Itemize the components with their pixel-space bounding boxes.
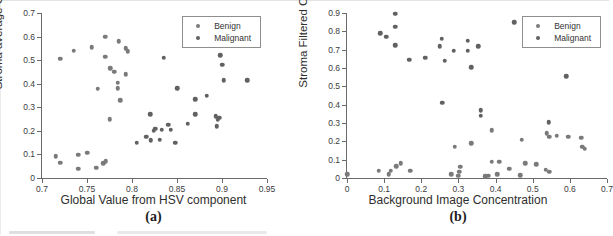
data-point-malignant [186,122,191,127]
y-tick-label: 0.8 [328,26,340,36]
y-tick [37,60,41,61]
x-tick [496,179,497,183]
scatter-panel-a: Stroma average Concentration Benign Mali… [1,1,306,236]
y-tick-label: 0.9 [328,8,340,18]
y-tick [342,13,346,14]
x-tick [533,179,534,183]
data-point-benign [103,34,108,39]
y-tick-label: 0.4 [328,100,340,110]
data-point-malignant [153,126,158,131]
data-point-benign [104,159,109,164]
x-tick [347,179,348,183]
data-point-malignant [546,120,551,125]
x-tick [132,179,133,183]
data-point-malignant [245,78,250,83]
data-point-malignant [215,118,220,123]
data-point-benign [408,168,413,173]
legend-label: Benign [214,21,240,31]
data-point-benign [534,162,539,167]
legend-entry-malignant: Malignant [530,32,591,44]
data-point-malignant [204,93,209,98]
y-tick [342,68,346,69]
y-tick [342,141,346,142]
data-point-malignant [465,48,470,53]
legend-label: Malignant [554,33,591,43]
x-tick [607,179,608,183]
x-tick [87,179,88,183]
data-point-benign [85,150,90,155]
data-point-benign [107,117,112,122]
y-tick [342,123,346,124]
data-point-benign [579,135,584,140]
x-tick [421,179,422,183]
data-point-malignant [378,31,383,36]
data-point-benign [94,166,99,171]
subfigure-caption-b: (b) [306,209,610,225]
x-axis-label-a: Global Value from HSV component [1,193,306,207]
data-point-benign [547,135,552,140]
plot-area-b: Benign Malignant 00.10.20.30.40.50.60.70… [346,13,607,179]
x-tick [267,179,268,183]
data-point-malignant [148,112,153,117]
data-point-benign [490,128,495,133]
data-point-benign [456,174,461,179]
data-point-malignant [476,44,481,49]
data-point-benign [125,49,130,54]
data-point-benign [519,137,524,142]
data-point-benign [58,160,63,165]
y-tick-label: 0.5 [23,55,35,65]
data-point-malignant [173,140,178,145]
data-point-benign [53,154,58,159]
data-point-benign [457,169,462,174]
data-point-benign [115,86,120,91]
data-point-benign [76,166,81,171]
data-point-benign [116,39,121,44]
data-point-benign [123,72,128,77]
subfigure-caption-a: (a) [1,209,306,225]
y-tick-label: 0 [335,173,340,183]
data-point-benign [497,159,502,164]
legend-a: Benign Malignant [182,16,261,48]
data-point-malignant [438,44,443,49]
data-point-benign [458,164,463,169]
y-tick-label: 0.7 [328,45,340,55]
y-tick-label: 0.6 [328,63,340,73]
data-point-benign [449,172,454,177]
data-point-benign [507,167,512,172]
x-tick [177,179,178,183]
data-point-benign [112,70,117,75]
data-point-malignant [193,97,198,102]
data-point-malignant [168,127,173,132]
data-point-benign [399,161,404,166]
data-point-malignant [222,78,227,83]
data-point-benign [518,173,523,178]
data-point-malignant [478,108,483,113]
y-tick [37,13,41,14]
data-point-malignant [440,101,445,106]
y-tick-label: 0.2 [23,126,35,136]
data-point-benign [582,146,587,151]
data-point-benign [547,169,552,174]
data-point-benign [495,172,500,177]
y-tick [37,131,41,132]
data-point-benign [71,48,76,53]
data-point-malignant [407,58,412,63]
y-tick-label: 0.6 [23,32,35,42]
y-tick [37,37,41,38]
y-tick [342,160,346,161]
data-point-malignant [564,74,569,79]
y-tick-label: 0.1 [23,149,35,159]
y-tick [37,107,41,108]
legend-entry-malignant: Malignant [190,32,251,44]
data-point-benign [345,172,350,177]
data-point-benign [89,45,94,50]
x-tick [42,179,43,183]
data-point-benign [452,145,457,150]
data-point-malignant [214,124,219,129]
y-tick-label: 0 [30,173,35,183]
legend-entry-benign: Benign [190,20,251,32]
malignant-marker-icon [536,36,541,41]
data-point-malignant [423,56,428,61]
data-point-benign [103,54,108,59]
y-tick-label: 0.1 [328,155,340,165]
